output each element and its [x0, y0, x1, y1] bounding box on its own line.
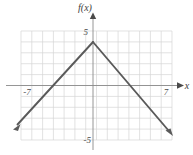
y-tick-label-5: 5: [84, 27, 89, 37]
y-tick-label-neg5: -5: [84, 135, 92, 145]
coordinate-plane-svg: f(x) x 5 -5 -7 7: [0, 0, 193, 155]
x-tick-label-neg7: -7: [23, 87, 31, 97]
graph-figure: f(x) x 5 -5 -7 7: [0, 0, 193, 155]
x-tick-label-7: 7: [164, 87, 169, 97]
y-axis-label: f(x): [78, 2, 93, 14]
x-axis-label: x: [184, 80, 190, 91]
